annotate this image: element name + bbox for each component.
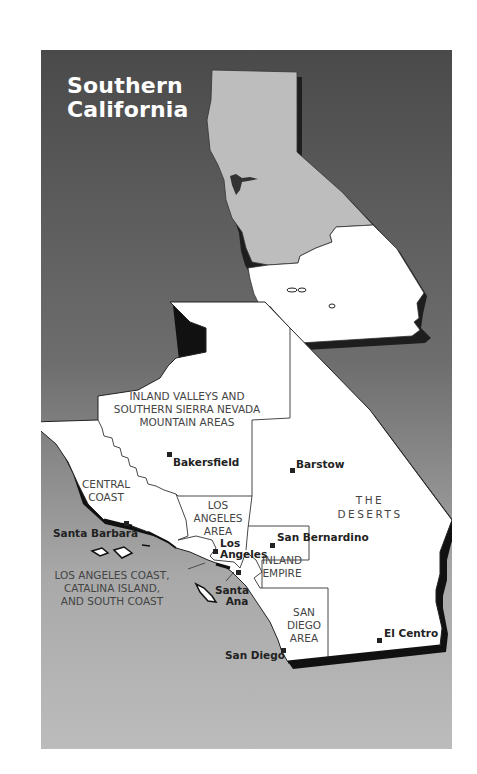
map-title-line-1: Southern (67, 74, 189, 98)
city-label-barstow: Barstow (296, 458, 345, 470)
region-label-san-diego-area: AREA (290, 632, 319, 644)
city-label-el-centro: El Centro (384, 627, 438, 639)
region-label-los-angeles-area: AREA (204, 525, 233, 537)
region-label-san-diego-area: DIEGO (287, 619, 321, 631)
region-label-san-diego-area: SAN (293, 606, 315, 618)
map-title: Southern California (67, 74, 189, 122)
region-label-the-deserts: THE (355, 494, 384, 506)
city-label-san-diego: San Diego (225, 649, 285, 661)
barstow-marker (290, 468, 295, 473)
southern-california-map: INLAND VALLEYS AND SOUTHERN SIERRA NEVAD… (41, 50, 452, 749)
region-label-inland-valleys: SOUTHERN SIERRA NEVADA (114, 403, 261, 415)
el-centro-marker (377, 638, 382, 643)
region-label-inland-empire: EMPIRE (262, 567, 301, 579)
region-label-los-angeles-area: LOS (208, 499, 229, 511)
region-label-inland-valleys: MOUNTAIN AREAS (140, 416, 235, 428)
region-label-la-coast: LOS ANGELES COAST, (54, 569, 169, 581)
city-label-bakersfield: Bakersfield (173, 456, 239, 468)
region-label-inland-empire: INLAND (262, 554, 302, 566)
map-frame: INLAND VALLEYS AND SOUTHERN SIERRA NEVAD… (41, 50, 452, 749)
region-label-la-coast: AND SOUTH COAST (61, 595, 164, 607)
bakersfield-marker (167, 452, 172, 457)
region-label-the-deserts: DESERTS (337, 508, 402, 520)
santa-ana-marker (236, 570, 241, 575)
santa-barbara-marker (124, 521, 129, 526)
map-title-line-2: California (67, 98, 189, 122)
city-label-santa-barbara: Santa Barbara (53, 527, 138, 539)
region-label-central-coast: CENTRAL (82, 478, 130, 490)
region-label-inland-valleys: INLAND VALLEYS AND (129, 390, 244, 402)
city-label-los-angeles: Angeles (220, 548, 267, 560)
region-label-la-coast: CATALINA ISLAND, (64, 582, 160, 594)
los-angeles-marker (213, 549, 218, 554)
san-bernardino-marker (270, 543, 275, 548)
region-label-central-coast: COAST (88, 491, 124, 503)
city-label-santa-ana: Ana (226, 595, 249, 607)
city-label-san-bernardino: San Bernardino (277, 531, 369, 543)
region-label-los-angeles-area: ANGELES (194, 512, 243, 524)
